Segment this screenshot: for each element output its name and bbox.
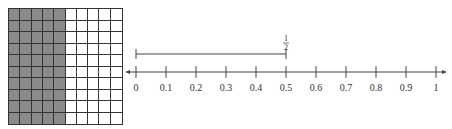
tick-label: 0.2 [190,82,203,93]
number-line: 00.10.20.30.40.50.60.70.80.91 1 2 [0,0,452,129]
tick-label: 0.7 [340,82,353,93]
tick-label: 0 [134,82,139,93]
fraction-denominator: 2 [284,43,288,52]
fraction-numerator: 1 [284,34,288,43]
right-arrow-icon [442,70,447,74]
tick-label: 0.4 [250,82,263,93]
tick-label: 0.3 [220,82,233,93]
tick-label: 0.5 [280,82,293,93]
tick-label: 0.8 [370,82,383,93]
tick-label: 1 [434,82,439,93]
tick-label: 0.6 [310,82,323,93]
half-bracket: 1 2 [136,34,289,59]
tick-label: 0.1 [160,82,173,93]
left-arrow-icon [125,70,130,74]
tick-label: 0.9 [400,82,413,93]
